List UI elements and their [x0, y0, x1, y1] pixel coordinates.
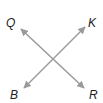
- label-r: R: [89, 88, 98, 102]
- label-k: K: [88, 16, 97, 30]
- line-bk: [24, 27, 85, 88]
- label-b: B: [10, 88, 18, 102]
- diagram-canvas: Q K B R: [0, 0, 103, 103]
- label-q: Q: [6, 16, 15, 30]
